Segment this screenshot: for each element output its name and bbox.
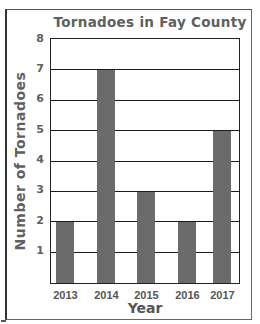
- chart-title: Tornadoes in Fay County: [50, 14, 250, 30]
- y-tick-label: 2: [30, 215, 44, 227]
- y-tick-label: 6: [30, 93, 44, 105]
- y-tick-label: 5: [30, 124, 44, 136]
- bar-2016: [178, 222, 196, 283]
- y-tick-label: 8: [30, 33, 44, 45]
- y-tick-label: 1: [30, 245, 44, 257]
- y-tick-label: 7: [30, 63, 44, 75]
- bar-2017: [213, 131, 231, 283]
- x-axis-label: Year: [50, 300, 240, 316]
- y-tick-label: 3: [30, 184, 44, 196]
- gridline: [51, 161, 239, 162]
- frame-corner-stub: [1, 320, 6, 322]
- y-tick-label: 4: [30, 154, 44, 166]
- plot-area: [50, 38, 240, 284]
- y-axis-label: Number of Tornadoes: [12, 72, 28, 251]
- bar-2015: [137, 192, 155, 283]
- gridline: [51, 130, 239, 131]
- gridline: [51, 69, 239, 70]
- bar-2014: [97, 70, 115, 283]
- bar-2013: [56, 222, 74, 283]
- gridline: [51, 100, 239, 101]
